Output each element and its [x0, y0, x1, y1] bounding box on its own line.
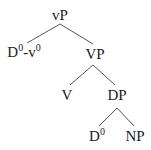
node-D0: D0: [89, 129, 105, 144]
node-VP: VP: [85, 47, 104, 62]
edge-vP-VP: [60, 24, 93, 44]
node-V: V: [62, 88, 73, 103]
node-NP: NP: [125, 129, 144, 144]
edge-DP-D0: [99, 108, 117, 126]
edge-VP-V: [70, 65, 93, 85]
node-NP-label: NP: [125, 128, 144, 144]
node-vP-label: vP: [52, 7, 68, 23]
node-D0-v0: D0-v0: [7, 45, 40, 60]
node-V-label: V: [62, 87, 73, 103]
node-Dv-sep: -v: [23, 44, 36, 60]
node-vP: vP: [52, 8, 68, 23]
node-D0-base: D: [89, 128, 100, 144]
edge-DP-NP: [117, 108, 134, 126]
edge-VP-DP: [93, 65, 115, 85]
node-VP-label: VP: [85, 46, 104, 62]
node-DP-label: DP: [107, 87, 126, 103]
node-D0-sup: 0: [100, 126, 105, 137]
node-Dv-base: D: [7, 44, 18, 60]
syntax-tree: vP D0-v0 VP V DP D0 NP: [0, 0, 151, 150]
node-DP: DP: [107, 88, 126, 103]
node-Dv-sup2: 0: [36, 42, 41, 53]
edge-vP-Dv: [27, 24, 60, 43]
